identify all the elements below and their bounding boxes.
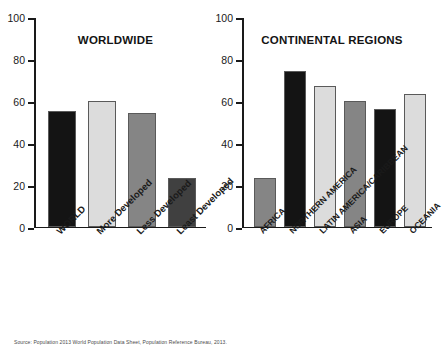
bar-slot [280, 17, 310, 227]
y-tick-label-20: 20 [221, 180, 233, 192]
y-tick-label-100: 100 [215, 12, 233, 24]
bar-slot [42, 17, 82, 227]
panel-worldwide: WORLDWIDE 0 20 40 60 80 100 [4, 10, 209, 330]
y-tick-label-0: 0 [19, 222, 25, 234]
y-tick-label-60: 60 [221, 96, 233, 108]
bar-more-developed[interactable] [88, 101, 116, 227]
bar-world[interactable] [48, 111, 76, 227]
bar-less-developed[interactable] [128, 113, 156, 226]
bar-northern-america[interactable] [284, 71, 306, 226]
source-note: Source: Population 2013 World Population… [14, 339, 227, 345]
y-tick-label-20: 20 [13, 180, 25, 192]
y-tick-label-40: 40 [13, 138, 25, 150]
y-tick-label-80: 80 [221, 54, 233, 66]
bar-group-continental-regions [244, 17, 432, 227]
y-tick-label-60: 60 [13, 96, 25, 108]
y-tick-label-100: 100 [7, 12, 25, 24]
bar-slot [250, 17, 280, 227]
bar-slot [400, 17, 430, 227]
y-tick-label-40: 40 [221, 138, 233, 150]
bar-slot [370, 17, 400, 227]
y-tick-label-80: 80 [13, 54, 25, 66]
panel-continental-regions: CONTINENTAL REGIONS 0 20 40 60 80 100 [216, 10, 434, 330]
bar-slot [82, 17, 122, 227]
y-tick-label-0: 0 [227, 222, 233, 234]
plot-area-continental-regions: 0 20 40 60 80 100 [242, 18, 430, 228]
